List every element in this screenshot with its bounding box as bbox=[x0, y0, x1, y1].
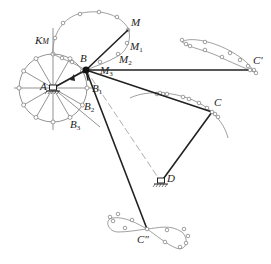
label-d: D bbox=[166, 172, 175, 184]
label-m1: M1 bbox=[129, 40, 143, 54]
label-m3: M3 bbox=[99, 64, 113, 78]
label-a: A bbox=[39, 80, 47, 92]
label-c: C bbox=[214, 96, 222, 108]
label-b3: B3 bbox=[70, 118, 81, 132]
ground-pivot-a-icon bbox=[45, 85, 60, 94]
linkage-svg: A B B1 B2 B3 M M1 M2 M3 KM C C' C" D bbox=[0, 0, 271, 264]
ground-pivot-d-icon bbox=[153, 178, 168, 187]
label-b2: B2 bbox=[84, 100, 95, 114]
label-c-prime: C' bbox=[253, 54, 263, 66]
label-m: M bbox=[130, 16, 141, 28]
joint-c-prime bbox=[248, 68, 252, 72]
joint-b bbox=[83, 67, 90, 74]
linkage-diagram: A B B1 B2 B3 M M1 M2 M3 KM C C' C" D bbox=[0, 0, 271, 264]
label-c-double-prime: C" bbox=[137, 233, 149, 245]
label-b: B bbox=[80, 52, 87, 64]
joint-c-double-prime bbox=[145, 227, 149, 231]
joint-c bbox=[210, 110, 214, 114]
label-km: KM bbox=[34, 34, 50, 46]
label-m2: M2 bbox=[118, 53, 132, 67]
label-b1: B1 bbox=[92, 82, 103, 96]
coupler-bc bbox=[86, 70, 212, 112]
